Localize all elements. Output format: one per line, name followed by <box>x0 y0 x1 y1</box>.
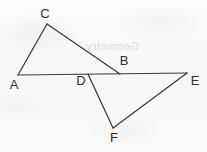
segment-group <box>18 24 187 128</box>
segment-c-b <box>47 24 120 74</box>
vertex-label-a: A <box>10 77 19 92</box>
vertex-label-e: E <box>191 73 200 88</box>
segment-d-f <box>88 74 113 128</box>
vertex-label-group: A B C D E F <box>10 6 200 145</box>
vertex-label-d: D <box>76 73 85 88</box>
vertex-label-b: B <box>120 53 129 68</box>
vertex-label-c: C <box>40 6 49 21</box>
geometry-svg: A B C D E F <box>0 0 207 152</box>
segment-a-e <box>18 73 187 75</box>
segment-a-c <box>18 24 47 75</box>
segment-f-e <box>113 73 187 128</box>
vertex-label-f: F <box>110 130 118 145</box>
geometry-figure-canvas: Geometry A B C D E F <box>0 0 207 152</box>
